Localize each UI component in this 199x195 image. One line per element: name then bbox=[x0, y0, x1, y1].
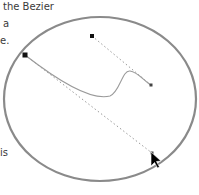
bezier-anchor-start[interactable] bbox=[23, 53, 28, 58]
bezier-anchor-end[interactable] bbox=[150, 84, 153, 87]
bezier-control-point-2[interactable] bbox=[90, 34, 94, 38]
bezier-curve[interactable] bbox=[25, 55, 151, 97]
ellipse-shape[interactable] bbox=[4, 17, 196, 181]
drawing-canvas[interactable] bbox=[0, 0, 199, 195]
mouse-cursor-icon bbox=[151, 152, 161, 168]
